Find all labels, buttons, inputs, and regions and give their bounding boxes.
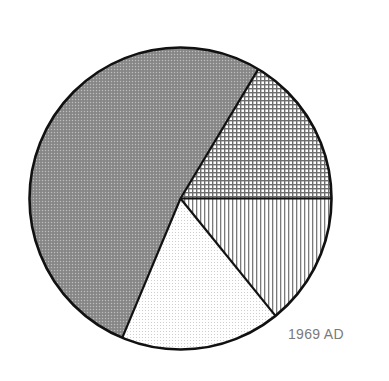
pie-chart	[0, 0, 389, 381]
chart-caption-year: 1969 AD	[288, 326, 344, 342]
pie-slices	[30, 48, 332, 350]
